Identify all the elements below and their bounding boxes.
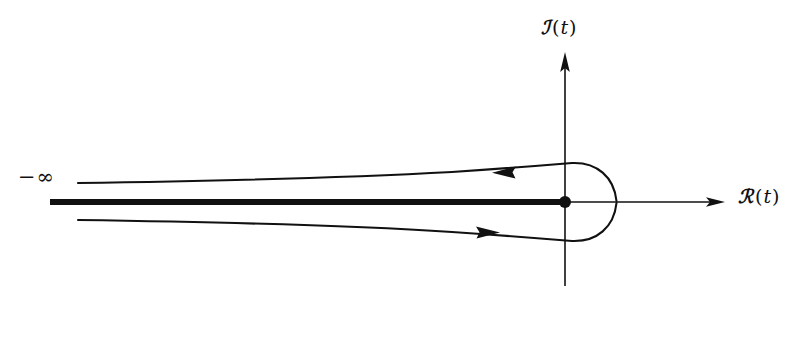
real-part-script-symbol: ℛ (738, 185, 754, 207)
imaginary-axis-label: ℐ(t) (541, 16, 577, 38)
contour-diagram-canvas (0, 0, 809, 361)
imaginary-label-variable: t (560, 16, 568, 38)
hankel-contour-figure: ℐ(t) ℛ(t) −∞ (0, 0, 809, 361)
negative-infinity-label: −∞ (18, 165, 55, 189)
lower-branch-direction-arrowhead-icon (476, 227, 500, 239)
real-label-open-paren: ( (754, 185, 763, 207)
origin-branch-point-dot (559, 196, 571, 208)
imaginary-part-script-symbol: ℐ (541, 16, 551, 38)
imaginary-label-close-paren: ) (568, 16, 577, 38)
contour-upper-branch (78, 163, 617, 201)
real-label-close-paren: ) (771, 185, 780, 207)
real-label-variable: t (763, 185, 771, 207)
real-axis-label: ℛ(t) (738, 185, 780, 207)
contour-lower-branch (78, 203, 617, 241)
imaginary-label-open-paren: ( (551, 16, 560, 38)
